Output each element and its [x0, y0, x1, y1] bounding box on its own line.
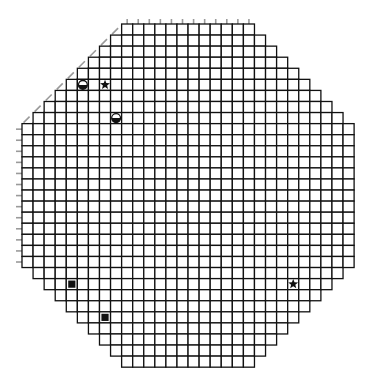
grid-cell[interactable] [343, 168, 354, 179]
grid-cell[interactable] [88, 245, 99, 256]
grid-cell[interactable] [122, 212, 133, 223]
grid-cell[interactable] [44, 146, 55, 157]
grid-cell[interactable] [144, 345, 155, 356]
grid-cell[interactable] [210, 190, 221, 201]
grid-cell[interactable] [288, 179, 299, 190]
grid-cell[interactable] [122, 90, 133, 101]
grid-cell[interactable] [243, 279, 254, 290]
grid-cell[interactable] [277, 279, 288, 290]
grid-cell[interactable] [188, 301, 199, 312]
grid-cell[interactable] [310, 124, 321, 135]
grid-cell[interactable] [310, 290, 321, 301]
grid-cell[interactable] [155, 168, 166, 179]
grid-cell[interactable] [144, 279, 155, 290]
grid-cell[interactable] [210, 245, 221, 256]
grid-cell[interactable] [277, 101, 288, 112]
grid-cell[interactable] [77, 190, 88, 201]
grid-cell[interactable] [221, 256, 232, 267]
grid-cell[interactable] [232, 256, 243, 267]
grid-cell[interactable] [88, 201, 99, 212]
grid-cell[interactable] [243, 223, 254, 234]
grid-cell[interactable] [122, 79, 133, 90]
grid-cell[interactable] [254, 323, 265, 334]
grid-cell[interactable] [199, 79, 210, 90]
grid-cell[interactable] [221, 245, 232, 256]
grid-cell[interactable] [232, 234, 243, 245]
grid-cell[interactable] [199, 290, 210, 301]
grid-cell[interactable] [33, 124, 44, 135]
grid-cell[interactable] [277, 323, 288, 334]
grid-cell[interactable] [266, 334, 277, 345]
grid-cell[interactable] [144, 68, 155, 79]
grid-cell[interactable] [210, 290, 221, 301]
grid-cell[interactable] [77, 268, 88, 279]
grid-cell[interactable] [310, 223, 321, 234]
grid-cell[interactable] [88, 301, 99, 312]
grid-cell[interactable] [177, 57, 188, 68]
grid-cell[interactable] [55, 168, 66, 179]
grid-cell[interactable] [122, 290, 133, 301]
grid-cell[interactable] [221, 345, 232, 356]
grid-cell[interactable] [254, 79, 265, 90]
grid-cell[interactable] [288, 190, 299, 201]
grid-cell[interactable] [122, 312, 133, 323]
grid-cell[interactable] [199, 35, 210, 46]
grid-cell[interactable] [199, 334, 210, 345]
grid-cell[interactable] [166, 179, 177, 190]
grid-cell[interactable] [254, 90, 265, 101]
grid-cell[interactable] [188, 245, 199, 256]
grid-cell[interactable] [254, 168, 265, 179]
grid-cell[interactable] [254, 68, 265, 79]
grid-cell[interactable] [122, 146, 133, 157]
grid-cell[interactable] [210, 57, 221, 68]
grid-cell[interactable] [144, 179, 155, 190]
grid-cell[interactable] [111, 212, 122, 223]
grid-cell[interactable] [77, 279, 88, 290]
grid-cell[interactable] [299, 101, 310, 112]
grid-cell[interactable] [166, 212, 177, 223]
grid-cell[interactable] [111, 334, 122, 345]
grid-cell[interactable] [66, 190, 77, 201]
grid-cell[interactable] [210, 124, 221, 135]
grid-cell[interactable] [243, 190, 254, 201]
grid-cell[interactable] [111, 57, 122, 68]
grid-cell[interactable] [122, 168, 133, 179]
grid-cell[interactable] [266, 279, 277, 290]
grid-cell[interactable] [254, 245, 265, 256]
grid-cell[interactable] [321, 157, 332, 168]
grid-cell[interactable] [44, 234, 55, 245]
grid-cell[interactable] [199, 146, 210, 157]
grid-cell[interactable] [210, 101, 221, 112]
grid-cell[interactable] [77, 124, 88, 135]
grid-cell[interactable] [232, 223, 243, 234]
grid-cell[interactable] [277, 268, 288, 279]
grid-cell[interactable] [277, 146, 288, 157]
grid-cell[interactable] [321, 101, 332, 112]
grid-cell[interactable] [144, 157, 155, 168]
grid-cell[interactable] [155, 279, 166, 290]
grid-cell[interactable] [188, 168, 199, 179]
grid-cell[interactable] [188, 334, 199, 345]
grid-cell[interactable] [232, 279, 243, 290]
grid-cell[interactable] [321, 212, 332, 223]
grid-cell[interactable] [77, 301, 88, 312]
grid-cell[interactable] [177, 223, 188, 234]
grid-cell[interactable] [111, 168, 122, 179]
grid-cell[interactable] [254, 234, 265, 245]
grid-cell[interactable] [166, 301, 177, 312]
grid-cell[interactable] [88, 212, 99, 223]
grid-cell[interactable] [44, 135, 55, 146]
grid-cell[interactable] [155, 268, 166, 279]
grid-cell[interactable] [277, 157, 288, 168]
grid-cell[interactable] [77, 135, 88, 146]
grid-cell[interactable] [277, 245, 288, 256]
grid-cell[interactable] [254, 46, 265, 57]
grid-cell[interactable] [243, 46, 254, 57]
grid-cell[interactable] [133, 68, 144, 79]
grid-cell[interactable] [88, 135, 99, 146]
grid-cell[interactable] [133, 79, 144, 90]
grid-cell[interactable] [166, 157, 177, 168]
grid-cell[interactable] [33, 201, 44, 212]
grid-cell[interactable] [221, 301, 232, 312]
grid-cell[interactable] [254, 268, 265, 279]
